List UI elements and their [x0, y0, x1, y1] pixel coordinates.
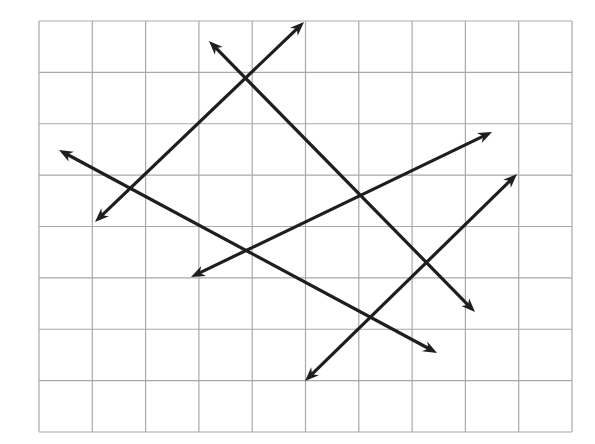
- grid-diagram: [0, 0, 595, 444]
- background: [0, 0, 595, 444]
